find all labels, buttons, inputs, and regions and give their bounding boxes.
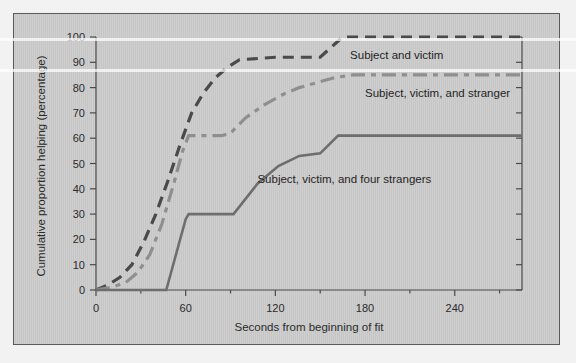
series-line-0 [96, 37, 522, 290]
x-tick-label: 240 [446, 302, 464, 314]
y-tick-label: 70 [73, 107, 85, 119]
series-line-2 [96, 136, 522, 290]
chart-plot-area: 0102030405060708090100060120180240 Subje… [0, 0, 576, 363]
y-tick-label: 90 [73, 56, 85, 68]
x-tick-label: 0 [93, 302, 99, 314]
series-labels-group: Subject and victimSubject, victim, and s… [257, 49, 510, 185]
y-tick-label: 40 [73, 183, 85, 195]
y-tick-label: 10 [73, 259, 85, 271]
x-tick-label: 180 [356, 302, 374, 314]
y-tick-label: 0 [79, 284, 85, 296]
figure-canvas: 0102030405060708090100060120180240 Subje… [0, 0, 576, 363]
y-tick-label: 60 [73, 132, 85, 144]
x-tick-label: 120 [266, 302, 284, 314]
series-group [96, 37, 522, 290]
y-tick-label: 80 [73, 82, 85, 94]
x-axis-title: Seconds from beginning of fit [235, 321, 385, 333]
series-label-0: Subject and victim [350, 49, 443, 61]
y-tick-label: 20 [73, 233, 85, 245]
y-tick-label: 30 [73, 208, 85, 220]
x-tick-label: 60 [180, 302, 192, 314]
series-label-1: Subject, victim, and stranger [365, 87, 510, 99]
y-tick-label: 100 [67, 31, 85, 43]
series-label-2: Subject, victim, and four strangers [257, 173, 431, 185]
y-tick-label: 50 [73, 158, 85, 170]
y-axis-title: Cumulative proportion helping (percentag… [35, 55, 47, 276]
axis-titles-group: Seconds from beginning of fit Cumulative… [35, 55, 384, 333]
